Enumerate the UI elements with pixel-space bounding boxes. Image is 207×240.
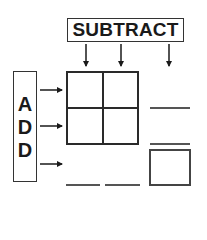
col1-sum-blank[interactable]	[66, 184, 100, 186]
col2-sum-blank[interactable]	[105, 184, 140, 186]
answer-box[interactable]	[149, 149, 191, 186]
row1-difference-blank[interactable]	[150, 107, 190, 109]
grid-divider-horizontal	[66, 107, 139, 109]
right-arrow-icons	[40, 90, 62, 164]
down-arrow-icons	[86, 44, 169, 66]
row2-difference-blank[interactable]	[150, 143, 190, 145]
